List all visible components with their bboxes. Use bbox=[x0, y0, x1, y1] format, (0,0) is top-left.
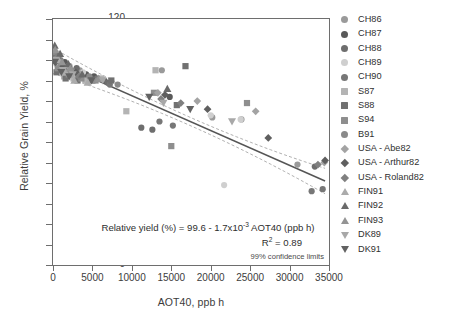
data-point bbox=[238, 116, 244, 122]
series-ch88 bbox=[53, 55, 318, 170]
r2-prefix: R bbox=[262, 237, 269, 248]
data-point bbox=[149, 127, 155, 133]
legend-item-label: USA - Abe82 bbox=[358, 141, 411, 155]
confidence-limits-label: 99% confidence limits bbox=[92, 252, 324, 261]
legend-item-label: DK91 bbox=[358, 242, 381, 256]
legend-item-label: CH90 bbox=[358, 69, 382, 83]
x-tick-label: 35000 bbox=[299, 272, 359, 283]
data-point bbox=[170, 123, 176, 129]
legend-marker-circle-icon bbox=[341, 16, 348, 23]
legend-item-label: S88 bbox=[358, 98, 374, 112]
data-point bbox=[152, 67, 158, 73]
legend-item-label: FIN93 bbox=[358, 213, 383, 227]
legend-item[interactable]: FIN92 bbox=[337, 198, 457, 212]
legend-item[interactable]: S87 bbox=[337, 84, 457, 98]
legend-marker-circle-icon bbox=[341, 74, 348, 81]
regression-annotation: Relative yield (%) = 99.6 - 1.7x10-3 AOT… bbox=[92, 221, 324, 261]
legend-item-label: CH86 bbox=[358, 12, 382, 26]
chart-figure: Relative Grain Yield, % 1201101009080706… bbox=[0, 0, 459, 317]
r-squared-text: R2 = 0.89 bbox=[92, 236, 324, 248]
legend-item[interactable]: B91 bbox=[337, 127, 457, 141]
legend-marker-circle-icon bbox=[341, 45, 348, 52]
legend-item[interactable]: USA - Abe82 bbox=[337, 141, 457, 155]
data-point bbox=[252, 107, 260, 115]
series-s94 bbox=[55, 65, 250, 149]
series-usa-roland82 bbox=[53, 54, 322, 168]
data-point bbox=[156, 118, 162, 124]
data-point bbox=[309, 188, 315, 194]
legend-item[interactable]: USA - Roland82 bbox=[337, 170, 457, 184]
r2-suffix: = 0.89 bbox=[272, 237, 302, 248]
data-point bbox=[123, 108, 129, 114]
data-point bbox=[244, 100, 250, 106]
legend-marker-tri-up-icon bbox=[341, 217, 349, 224]
legend-item-label: FIN92 bbox=[358, 198, 383, 212]
legend-item[interactable]: CH90 bbox=[337, 69, 457, 83]
legend-item-label: USA - Roland82 bbox=[358, 170, 424, 184]
data-point bbox=[221, 182, 227, 188]
legend-marker-square-icon bbox=[341, 88, 348, 95]
legend-item-label: CH87 bbox=[358, 26, 382, 40]
legend-item[interactable]: FIN91 bbox=[337, 184, 457, 198]
data-point bbox=[163, 85, 171, 92]
legend-marker-circle-icon bbox=[341, 131, 348, 138]
legend-marker-circle-icon bbox=[341, 31, 348, 38]
confidence-limit-line bbox=[53, 74, 325, 194]
data-point bbox=[320, 186, 326, 192]
legend-item[interactable]: DK91 bbox=[337, 242, 457, 256]
data-point bbox=[228, 118, 236, 125]
data-point bbox=[264, 134, 272, 142]
legend-item-label: CH89 bbox=[358, 55, 382, 69]
legend-item[interactable]: CH86 bbox=[337, 12, 457, 26]
legend-marker-tri-up-icon bbox=[341, 188, 349, 195]
legend-item-label: S87 bbox=[358, 84, 374, 98]
legend-marker-circle-icon bbox=[341, 59, 348, 66]
legend-item-label: CH88 bbox=[358, 41, 382, 55]
data-point bbox=[186, 106, 194, 113]
legend-item-label: B91 bbox=[358, 127, 374, 141]
x-axis-title: AOT40, ppb h bbox=[52, 296, 330, 308]
legend-item-label: DK89 bbox=[358, 227, 381, 241]
data-point bbox=[208, 112, 214, 118]
legend-marker-diamond-icon bbox=[341, 145, 349, 153]
y-axis-title: Relative Grain Yield, % bbox=[18, 46, 30, 226]
legend-item[interactable]: S88 bbox=[337, 98, 457, 112]
data-point bbox=[294, 161, 300, 167]
legend-item-label: USA - Arthur82 bbox=[358, 155, 419, 169]
legend-marker-tri-down-icon bbox=[341, 232, 349, 239]
legend-item[interactable]: CH89 bbox=[337, 55, 457, 69]
equation-text: Relative yield (%) = 99.6 - 1.7x10-3 AOT… bbox=[92, 221, 324, 233]
legend: CH86CH87CH88CH89CH90S87S88S94B91USA - Ab… bbox=[337, 12, 457, 256]
legend-item[interactable]: FIN93 bbox=[337, 213, 457, 227]
legend-marker-diamond-icon bbox=[341, 159, 349, 167]
equation-prefix: Relative yield (%) = 99.6 - 1.7x10 bbox=[101, 222, 243, 233]
legend-marker-tri-down-icon bbox=[341, 246, 349, 253]
data-points bbox=[53, 42, 329, 195]
data-point bbox=[159, 67, 165, 73]
data-point bbox=[115, 82, 121, 88]
data-point bbox=[108, 77, 114, 83]
legend-item[interactable]: CH87 bbox=[337, 26, 457, 40]
legend-item[interactable]: CH88 bbox=[337, 41, 457, 55]
legend-item-label: S94 bbox=[358, 112, 374, 126]
series-ch90 bbox=[53, 51, 326, 195]
legend-marker-square-icon bbox=[341, 102, 348, 109]
legend-marker-tri-up-icon bbox=[341, 202, 349, 209]
data-point bbox=[182, 63, 188, 69]
legend-item[interactable]: USA - Arthur82 bbox=[337, 155, 457, 169]
data-point bbox=[193, 97, 201, 105]
legend-item[interactable]: DK89 bbox=[337, 227, 457, 241]
legend-item[interactable]: S94 bbox=[337, 112, 457, 126]
data-point bbox=[138, 125, 144, 131]
equation-suffix: AOT40 (ppb h) bbox=[249, 222, 315, 233]
legend-item-label: FIN91 bbox=[358, 184, 383, 198]
data-point bbox=[204, 105, 212, 113]
data-point bbox=[168, 143, 174, 149]
series-ch86 bbox=[53, 53, 301, 168]
legend-marker-diamond-icon bbox=[341, 174, 349, 182]
legend-marker-square-icon bbox=[341, 117, 348, 124]
